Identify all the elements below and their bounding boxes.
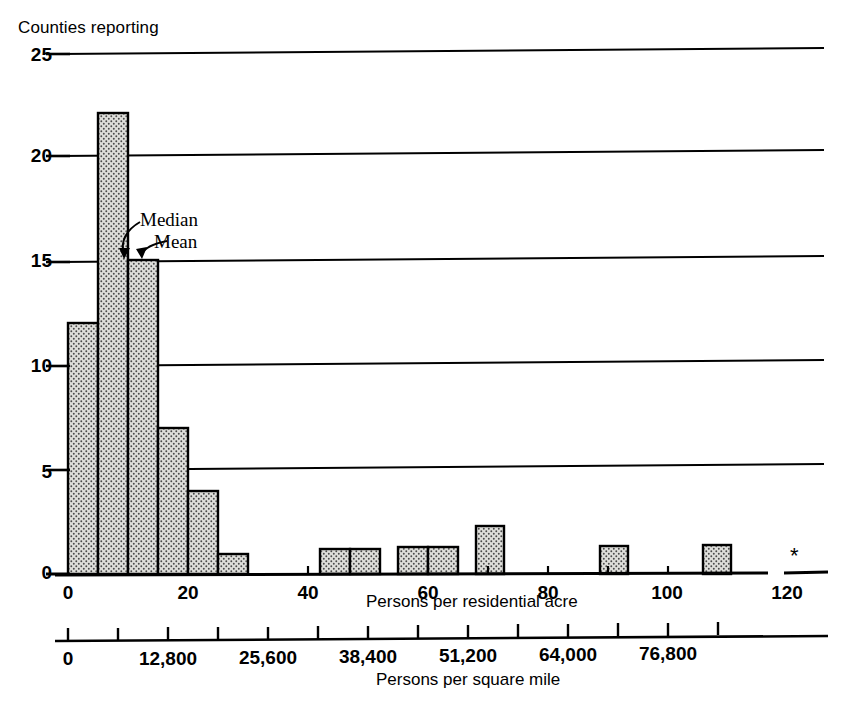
x2-tick-label-38400: 38,400	[318, 646, 418, 668]
x2-tick-label-0: 0	[56, 648, 80, 670]
x-axis-primary-caption: Persons per residential acre	[366, 592, 578, 612]
x2-tick-label-25600: 25,600	[218, 647, 318, 669]
x2-tick-label-76800: 76,800	[618, 643, 718, 665]
x-axis-secondary-caption: Persons per square mile	[376, 670, 560, 690]
y-tick-marks	[46, 54, 70, 574]
x2-tick-label-12800: 12,800	[118, 648, 218, 670]
x-tick-label-100: 100	[643, 582, 691, 604]
x-tick-label-120: 120	[763, 582, 811, 604]
chart-canvas: Counties reporting 25 20 15 10 5 0	[0, 0, 849, 706]
gridlines	[58, 48, 824, 470]
x-tick-label-20: 20	[170, 582, 206, 604]
offscale-asterisk: *	[790, 545, 799, 567]
x2-tick-label-51200: 51,200	[418, 645, 518, 667]
x2-tick-label-64000: 64,000	[518, 644, 618, 666]
annotation-median-label: Median	[140, 209, 198, 231]
x-tick-label-40: 40	[290, 582, 326, 604]
x-tick-label-0: 0	[56, 582, 80, 604]
bar-stipple-texture	[69, 114, 730, 573]
x-axis-secondary	[55, 622, 828, 641]
annotation-mean-label: Mean	[154, 231, 197, 253]
